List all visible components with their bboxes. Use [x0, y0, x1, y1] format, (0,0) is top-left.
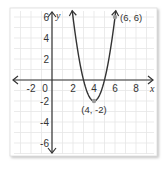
point-label: (6, 6)	[120, 12, 142, 23]
y-tick-label: -4	[40, 117, 49, 128]
x-tick-label: -2	[27, 83, 36, 94]
point-marker	[113, 15, 117, 19]
y-tick-label: -2	[40, 96, 49, 107]
x-axis-label: x	[149, 83, 155, 94]
y-tick-label: 4	[43, 33, 49, 44]
x-tick-label: 2	[70, 83, 76, 94]
y-tick-label: -6	[40, 138, 49, 149]
point-marker	[92, 99, 96, 103]
x-tick-label: 8	[133, 83, 139, 94]
vertex-label: (4, -2)	[81, 104, 106, 115]
x-tick-label: 4	[91, 83, 97, 94]
x-tick-label: 0	[42, 83, 48, 94]
parabola-graph: yx -202468-6-4-2246 (4, -2)(6, 6)	[0, 0, 162, 170]
x-tick-label: 6	[112, 83, 118, 94]
y-tick-label: 2	[43, 54, 49, 65]
y-axis-label: y	[55, 10, 61, 21]
y-tick-label: 6	[43, 12, 49, 23]
